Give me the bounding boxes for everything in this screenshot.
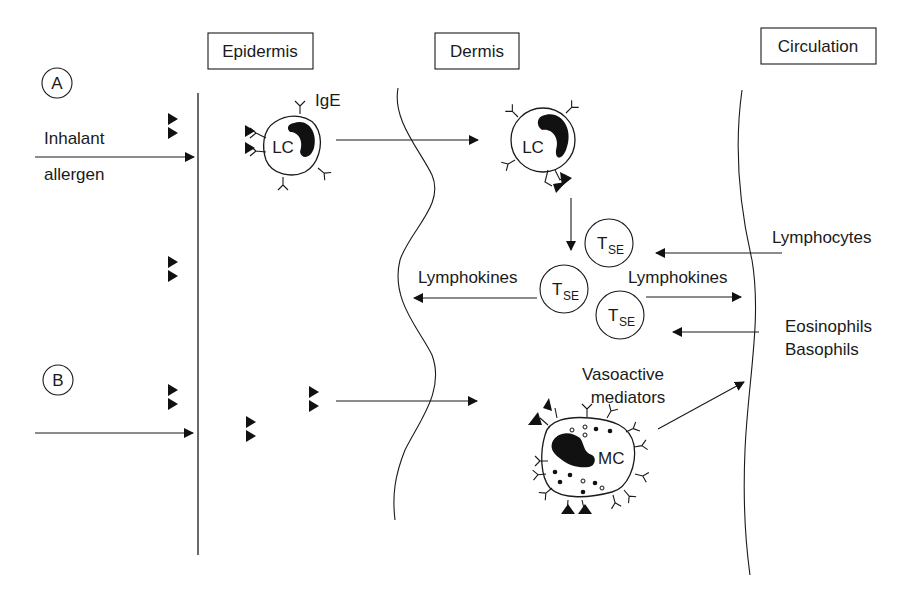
pathway-a-marker: A	[42, 68, 72, 98]
svg-text:Dermis: Dermis	[450, 42, 504, 61]
svg-text:LC: LC	[522, 138, 544, 157]
region-header-dermis: Dermis	[435, 33, 519, 69]
svg-text:T: T	[597, 234, 607, 253]
lymphokines-left-label: Lymphokines	[418, 268, 518, 287]
allergen-pathway-diagram: Epidermis Dermis Circulation A Inhalant …	[0, 0, 915, 609]
langerhans-cell-dermis: LC	[501, 100, 578, 193]
svg-text:B: B	[52, 371, 63, 390]
lymphokines-right-label: Lymphokines	[628, 268, 728, 287]
svg-text:T: T	[552, 280, 562, 299]
epidermis-dermis-boundary	[394, 88, 436, 520]
svg-text:MC: MC	[598, 449, 624, 468]
svg-text:A: A	[51, 74, 63, 93]
eosinophils-label: Eosinophils	[785, 317, 872, 336]
region-header-epidermis: Epidermis	[208, 33, 313, 69]
allergen-icon	[168, 256, 178, 282]
svg-text:SE: SE	[608, 243, 624, 257]
svg-text:SE: SE	[563, 289, 579, 303]
basophils-label: Basophils	[785, 340, 859, 359]
svg-text:Epidermis: Epidermis	[222, 42, 298, 61]
vasoactive-arrow	[658, 382, 744, 429]
mediators-label: mediators	[591, 388, 666, 407]
svg-text:SE: SE	[619, 315, 635, 329]
langerhans-cell-epidermis: LC IgE	[245, 91, 341, 190]
allergen-icon	[246, 416, 256, 442]
allergen-icon	[168, 384, 178, 410]
vasoactive-label: Vasoactive	[582, 365, 664, 384]
mast-cell: MC	[528, 398, 649, 514]
t-cell-1: T SE	[585, 219, 633, 267]
svg-text:Circulation: Circulation	[778, 37, 858, 56]
t-cell-2: T SE	[540, 265, 588, 313]
region-header-circulation: Circulation	[761, 28, 876, 64]
t-cell-3: T SE	[596, 291, 644, 339]
allergen-icon	[168, 113, 178, 139]
allergen-icon	[309, 386, 319, 412]
svg-text:LC: LC	[272, 138, 294, 157]
ige-label: IgE	[315, 91, 341, 110]
allergen-label: allergen	[44, 165, 105, 184]
svg-text:T: T	[608, 306, 618, 325]
inhalant-label: Inhalant	[44, 129, 105, 148]
pathway-b-marker: B	[43, 365, 73, 395]
lymphocytes-label: Lymphocytes	[772, 228, 872, 247]
